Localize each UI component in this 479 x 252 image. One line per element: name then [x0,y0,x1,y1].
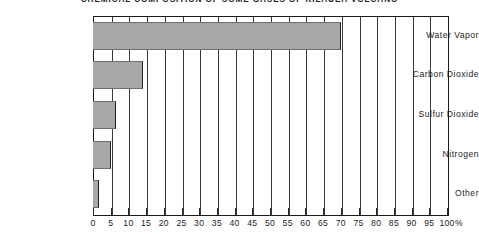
x-axis: % 05101520253035404550556065707580859095… [0,216,479,238]
tick-mark [182,208,183,215]
tick-mark [394,208,395,215]
tick-mark [305,208,306,215]
bar-water-vapor [93,22,341,50]
tick-mark [111,208,112,215]
bar-sulfur-dioxide [93,101,116,129]
bar-carbon-dioxide [93,61,143,89]
tick-mark [447,208,448,215]
bar-nitrogen [93,141,111,169]
tick-mark [323,208,324,215]
tick-mark [252,208,253,215]
x-tick-label: 100 [434,218,460,228]
bar-row [93,101,447,129]
bar-row [93,180,447,208]
tick-mark [128,208,129,215]
bar-chart: CHEMICAL COMPOSITION OF SOME GASES OF KI… [0,0,479,252]
tick-mark [270,208,271,215]
bar-row [93,22,447,50]
bar-row [93,141,447,169]
tick-mark [235,208,236,215]
bar-other [93,180,99,208]
tick-mark [217,208,218,215]
tick-mark [288,208,289,215]
tick-mark [429,208,430,215]
chart-title: CHEMICAL COMPOSITION OF SOME GASES OF KI… [0,0,479,4]
tick-mark [146,208,147,215]
tick-mark [359,208,360,215]
tick-mark [93,208,94,215]
bar-row [93,61,447,89]
tick-mark [341,208,342,215]
tick-mark [164,208,165,215]
tick-mark [199,208,200,215]
tick-mark [376,208,377,215]
tick-mark [412,208,413,215]
